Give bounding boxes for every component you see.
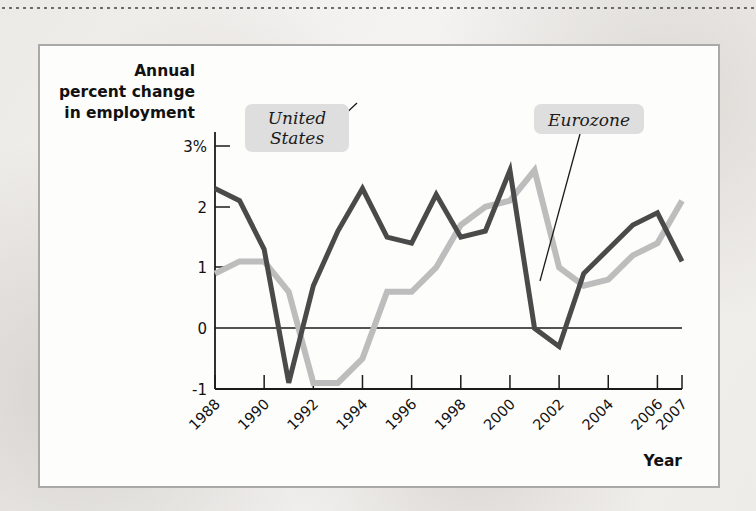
callout-label-united-states-line-1: United (268, 108, 327, 128)
figure-box: Annual percent change in employment 3% 2… (38, 44, 720, 488)
y-tick-label-2: 2 (197, 199, 207, 217)
y-tick-label-1: 1 (197, 259, 207, 277)
y-tick-label-minus1: -1 (192, 381, 207, 399)
callout-eurozone: Eurozone (534, 104, 644, 281)
y-axis-title-line-2: percent change (59, 83, 195, 101)
y-tick-label-3: 3% (183, 138, 207, 156)
y-axis-tick-labels: 3% 2 1 0 -1 (183, 138, 207, 399)
x-tick-label-2002: 2002 (530, 396, 567, 433)
x-tick-label-1996: 1996 (382, 396, 419, 433)
x-tick-label-1994: 1994 (333, 396, 370, 433)
x-tick-label-2000: 2000 (481, 396, 518, 433)
x-axis-ticks (215, 375, 682, 389)
x-axis-title: Year (643, 452, 683, 470)
x-tick-label-1988: 1988 (186, 396, 223, 433)
y-axis-ticks (215, 146, 230, 267)
page-top-dotted-rule (0, 6, 756, 10)
callout-label-eurozone: Eurozone (547, 110, 630, 130)
y-tick-label-0: 0 (197, 320, 207, 338)
x-tick-label-1992: 1992 (284, 396, 321, 433)
x-tick-label-1990: 1990 (235, 396, 272, 433)
x-tick-label-1998: 1998 (432, 396, 469, 433)
callout-label-united-states-line-2: States (270, 128, 325, 148)
y-axis-title-line-3: in employment (64, 104, 195, 122)
y-axis-title: Annual percent change in employment (59, 62, 196, 122)
callout-united-states: United States (245, 103, 357, 152)
x-axis-tick-labels: 1988199019921994199619982000200220042006… (186, 396, 690, 433)
y-axis-title-line-1: Annual (134, 62, 195, 80)
x-tick-label-2004: 2004 (579, 396, 616, 433)
employment-line-chart: Annual percent change in employment 3% 2… (40, 46, 722, 490)
chart-plot-area: Annual percent change in employment 3% 2… (40, 46, 722, 490)
